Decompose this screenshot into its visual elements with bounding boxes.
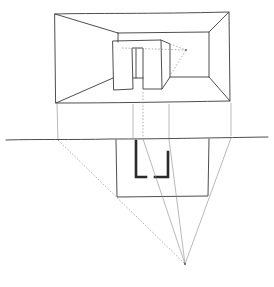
plan-u-wall [136, 141, 168, 177]
station-point [184, 263, 186, 265]
ray-left [58, 140, 185, 264]
room-perspective [55, 12, 230, 103]
block-perspective [113, 40, 187, 90]
room-back-wall [118, 32, 209, 77]
perspective-sketch [0, 0, 274, 287]
corner-line-bottom-left [56, 78, 113, 103]
plan-view [116, 139, 209, 197]
hidden-edge-diagonal [171, 50, 186, 74]
plan-rectangle [116, 139, 209, 197]
hidden-edge-side [170, 44, 186, 50]
vanishing-point [185, 49, 187, 51]
room-outer-frame [55, 12, 230, 103]
projectors [57, 92, 231, 140]
projector-left [57, 103, 58, 140]
ray-block [169, 139, 185, 264]
corner-line-top-right [209, 12, 229, 32]
ray-door [143, 139, 185, 264]
block-front-face [113, 40, 162, 90]
block-side-face [161, 40, 170, 89]
ray-right [185, 138, 231, 264]
corner-line-bottom-right [209, 77, 230, 101]
picture-plane-line [6, 137, 268, 140]
visual-rays [58, 138, 231, 265]
corner-line-top-left [55, 14, 118, 33]
